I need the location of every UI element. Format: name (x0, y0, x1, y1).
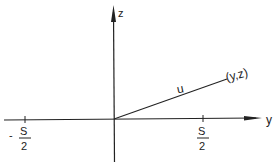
y-axis-arrowhead-icon (244, 116, 262, 121)
y-axis: y (4, 113, 272, 127)
z-axis-arrowhead-icon (111, 5, 116, 22)
tick-positive-half-s: S 2 (197, 115, 209, 152)
diagram-canvas: y z u (y,z) - S 2 S 2 (0, 0, 275, 165)
tick-numerator: S (198, 125, 205, 137)
tick-numerator: S (20, 125, 27, 137)
tick-denominator: 2 (199, 140, 205, 152)
vector-label: u (175, 81, 184, 96)
tick-sign: - (9, 129, 13, 141)
z-axis-label: z (118, 7, 124, 19)
tick-negative-half-s: - S 2 (9, 116, 31, 152)
z-axis: z (111, 5, 124, 162)
vector-u: u (y,z) (114, 65, 249, 119)
y-axis-label: y (266, 113, 272, 127)
tick-denominator: 2 (21, 140, 27, 152)
endpoint-label: (y,z) (224, 65, 249, 84)
